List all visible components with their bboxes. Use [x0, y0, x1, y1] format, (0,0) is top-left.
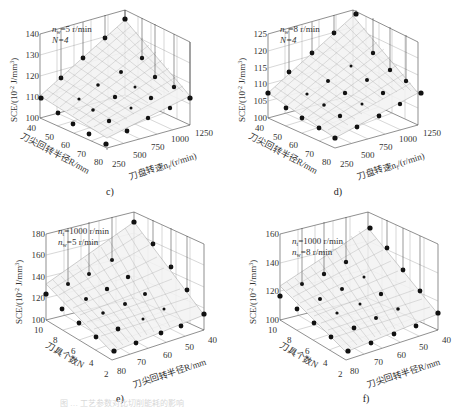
y-tick: 70	[374, 357, 384, 367]
z-tick: 140	[26, 29, 40, 39]
chart-panel-e: 180 160 140 120 100 10 8 6 4 2 80 70 60 …	[0, 200, 228, 400]
panel-label-c: c)	[90, 186, 130, 197]
z-tick: 100	[32, 315, 46, 325]
y-tick: 1250	[423, 128, 442, 138]
y-tick: 250	[112, 159, 126, 169]
z-axis-label: SCE/(10-2 J/mm3)	[9, 58, 19, 122]
y-tick: 750	[379, 142, 393, 152]
x-tick: 70	[77, 149, 87, 159]
x-axis-label: 刀具个数N	[278, 339, 321, 370]
z-tick: 105	[254, 96, 268, 106]
x-tick: 60	[61, 140, 71, 150]
y-tick: 60	[397, 350, 407, 360]
z-axis-label: SCE/(10-2 J/mm3)	[248, 260, 258, 324]
chart-panel-c: 140 130 120 110 100 40 50 60 70 80 250 5…	[0, 0, 228, 200]
figure-caption: 图 … 工艺参数对比切削能耗的影响	[60, 397, 400, 407]
x-tick: 60	[289, 140, 299, 150]
annotation-line1: nw=5 r/min	[52, 24, 92, 35]
x-tick: 80	[322, 157, 332, 167]
z-tick: 100	[266, 315, 280, 325]
y-tick: 500	[361, 150, 375, 160]
z-tick: 180	[32, 229, 46, 239]
z-tick: 110	[254, 79, 268, 89]
z-tick: 110	[26, 92, 40, 102]
z-tick: 160	[266, 229, 280, 239]
z-tick: 125	[254, 29, 268, 39]
surface-plot-e: 180 160 140 120 100 10 8 6 4 2 80 70 60 …	[0, 200, 228, 400]
x-tick: 10	[34, 325, 44, 335]
z-tick: 120	[26, 71, 40, 81]
y-tick: 1000	[171, 134, 190, 144]
x-axis-label: 刀具个数N	[44, 339, 87, 370]
x-tick: 50	[273, 132, 283, 142]
annotation-line1: nt=1000 r/min	[292, 236, 343, 247]
y-tick: 1000	[399, 134, 418, 144]
z-tick: 120	[32, 293, 46, 303]
z-tick: 115	[254, 63, 268, 73]
z-tick: 160	[32, 250, 46, 260]
x-tick: 50	[45, 132, 55, 142]
x-tick: 2	[338, 369, 343, 379]
annotation-line1: nw=8 r/min	[280, 24, 320, 35]
annotation-line1: nt=1000 r/min	[58, 226, 109, 237]
panel-label-d: d)	[318, 186, 358, 197]
y-tick: 250	[340, 159, 354, 169]
z-tick: 100	[26, 113, 40, 123]
y-tick: 1250	[195, 128, 214, 138]
z-tick: 130	[26, 50, 40, 60]
x-tick: 40	[255, 123, 265, 133]
z-axis-label: SCE/(10-2 J/mm3)	[14, 260, 24, 324]
z-tick: 140	[32, 272, 46, 282]
y-tick: 40	[442, 335, 452, 345]
y-tick: 750	[151, 142, 165, 152]
y-tick: 70	[137, 357, 147, 367]
y-tick: 80	[350, 366, 360, 376]
x-tick: 10	[268, 325, 278, 335]
y-tick: 40	[208, 335, 218, 345]
x-tick: 4	[89, 358, 94, 368]
x-tick: 4	[323, 358, 328, 368]
surface-plot-d: 125 120 115 110 105 100 40 50 60 70 80 2…	[228, 0, 456, 200]
z-tick: 100	[254, 113, 268, 123]
chart-panel-f: 160 140 120 100 10 8 6 4 2 80 70 60 50 4…	[228, 200, 456, 400]
y-tick: 500	[133, 150, 147, 160]
y-tick: 60	[163, 350, 173, 360]
annotation-line2: N=4	[51, 35, 69, 45]
chart-panel-d: 125 120 115 110 105 100 40 50 60 70 80 2…	[228, 0, 456, 200]
x-tick: 2	[104, 369, 109, 379]
y-tick: 50	[419, 342, 429, 352]
x-tick: 80	[94, 157, 104, 167]
z-tick: 120	[254, 46, 268, 56]
z-tick: 140	[266, 258, 280, 268]
surface-plot-f: 160 140 120 100 10 8 6 4 2 80 70 60 50 4…	[228, 200, 456, 400]
x-tick: 70	[305, 149, 315, 159]
annotation-line2: N=4	[279, 35, 297, 45]
z-tick: 120	[266, 286, 280, 296]
z-axis-label: SCE/(10-2 J/mm3)	[237, 58, 247, 122]
surface-plot-c: 140 130 120 110 100 40 50 60 70 80 250 5…	[0, 0, 228, 200]
y-tick: 50	[185, 342, 195, 352]
x-tick: 40	[27, 123, 37, 133]
y-tick: 80	[117, 366, 127, 376]
